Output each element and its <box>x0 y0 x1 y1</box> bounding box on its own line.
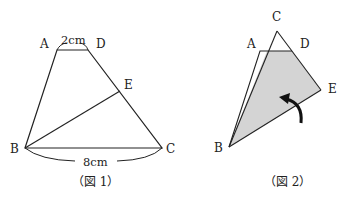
label-e2: E <box>328 82 337 96</box>
label-d: D <box>96 37 106 51</box>
label-e: E <box>124 78 133 92</box>
label-a2: A <box>246 37 256 51</box>
figure-1: A D 2cm E B C 8cm （図 1） <box>10 33 175 189</box>
measure-ad: 2cm <box>61 33 86 47</box>
measure-bc: 8cm <box>83 155 108 169</box>
label-b: B <box>10 142 19 156</box>
figure-2: C A D E B （図 2） <box>214 10 337 189</box>
label-c: C <box>166 142 175 156</box>
label-a: A <box>39 37 49 51</box>
label-d2: D <box>300 37 310 51</box>
segment-be <box>25 91 120 148</box>
caption-figure-2: （図 2） <box>264 175 311 189</box>
label-b2: B <box>214 141 223 155</box>
trapezoid-abcd <box>25 50 162 148</box>
diagram-canvas: A D 2cm E B C 8cm （図 1） C A D E B （図 2） <box>0 0 344 198</box>
label-c2: C <box>272 10 281 24</box>
caption-figure-1: （図 1） <box>72 175 119 189</box>
